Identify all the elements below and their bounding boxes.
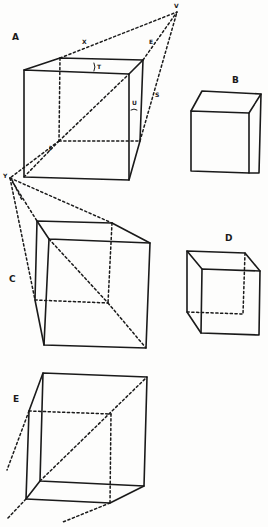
label-mark-j: J	[48, 144, 51, 152]
cube-b	[191, 91, 261, 173]
label-cube-e: E	[13, 394, 19, 404]
perspective-cube-figure: A B C D E V Y X E T U S J	[0, 0, 268, 527]
label-cube-b: B	[232, 75, 239, 85]
label-mark-x: X	[82, 38, 87, 45]
cube-d	[187, 251, 260, 335]
label-vanishing-v: V	[174, 2, 179, 9]
label-vanishing-y: Y	[2, 172, 8, 179]
label-cube-d: D	[225, 233, 232, 243]
label-mark-s: S	[155, 91, 159, 98]
cube-c	[10, 178, 150, 348]
label-mark-u: U	[132, 99, 137, 106]
cube-e	[7, 373, 147, 522]
label-mark-e: E	[149, 38, 153, 45]
label-mark-t: T	[97, 63, 102, 70]
label-cube-c: C	[9, 274, 16, 284]
drawing: A B C D E V Y X E T U S J	[0, 0, 268, 527]
label-cube-a: A	[12, 32, 19, 42]
